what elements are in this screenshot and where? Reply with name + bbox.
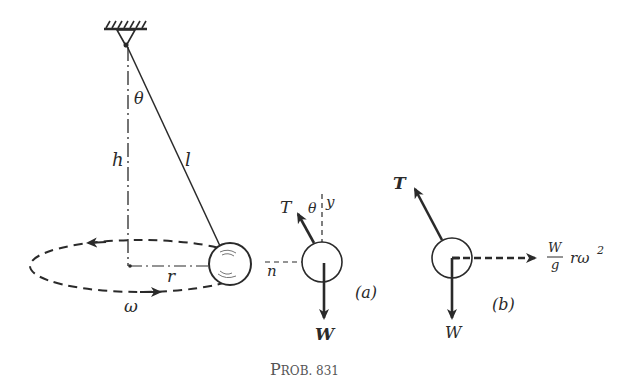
- label-a: (a): [355, 283, 377, 302]
- free-body-diagram-b: T W (b) W g rω 2: [393, 173, 604, 342]
- inertial-force-r-omega: rω: [570, 249, 589, 267]
- inertial-force-denominator: g: [551, 257, 559, 272]
- pendulum-bob: [209, 243, 251, 285]
- tension-arrow-b-icon: [415, 189, 442, 240]
- theta-label: θ: [134, 89, 144, 108]
- conical-pendulum-figure: θ h l r ω T θ y n (a) W T W (b) W g rω 2…: [0, 0, 632, 388]
- y-axis-label: y: [325, 193, 335, 211]
- figure-caption: PROB. 831: [270, 360, 339, 379]
- l-label: l: [185, 149, 191, 170]
- tension-label-a: T: [280, 197, 293, 217]
- tension-label-b: T: [393, 173, 407, 193]
- weight-label-b: W: [445, 323, 463, 342]
- pendulum-string: [127, 46, 220, 246]
- inertial-force-numerator: W: [548, 240, 563, 255]
- tension-arrow-icon: [298, 214, 314, 243]
- r-label: r: [167, 266, 176, 286]
- orbit-arrow-top-icon: [88, 242, 106, 243]
- ceiling-support-icon: [104, 21, 147, 48]
- omega-label: ω: [124, 296, 138, 316]
- h-label: h: [112, 149, 124, 170]
- n-axis-label: n: [267, 262, 277, 280]
- weight-label-a: W: [315, 324, 336, 344]
- label-b: (b): [492, 295, 515, 314]
- free-body-diagram-a: T θ y n (a) W: [265, 193, 377, 344]
- theta-label-a: θ: [308, 200, 317, 216]
- inertial-force-exponent: 2: [596, 244, 604, 257]
